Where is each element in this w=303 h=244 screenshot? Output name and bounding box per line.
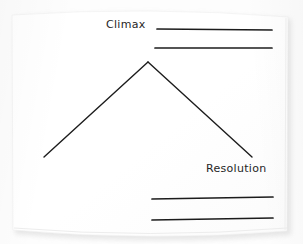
scan-backdrop: [0, 0, 303, 244]
label-resolution: Resolution: [206, 163, 266, 174]
label-climax: Climax: [106, 19, 146, 30]
screenshot-root: Climax Resolution: [0, 0, 303, 244]
